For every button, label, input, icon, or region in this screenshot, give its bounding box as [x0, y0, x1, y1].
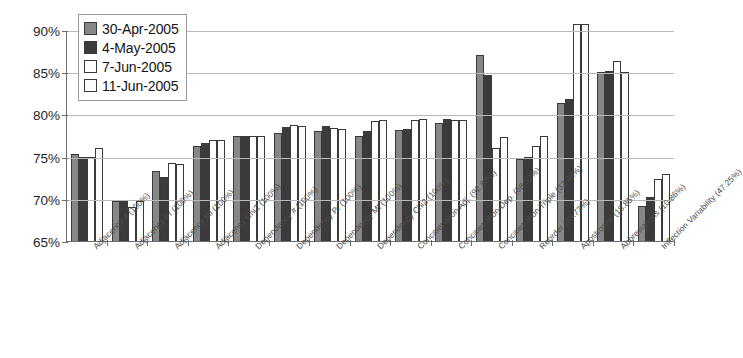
bar [371, 121, 379, 241]
bar [217, 140, 225, 241]
y-axis-tick [62, 158, 68, 159]
legend-swatch-icon [84, 60, 97, 73]
bar [71, 154, 79, 241]
legend-item: 30-Apr-2005 [84, 19, 179, 38]
bar [330, 128, 338, 241]
bar [451, 120, 459, 241]
y-axis-tick [62, 73, 68, 74]
legend-label: 30-Apr-2005 [102, 21, 179, 37]
bar [338, 129, 346, 241]
bar [532, 146, 540, 241]
bar [79, 157, 87, 241]
y-axis-tick-label: 80% [14, 108, 60, 123]
y-axis-tick-label: 85% [14, 66, 60, 81]
legend: 30-Apr-20054-May-20057-Jun-200511-Jun-20… [78, 14, 187, 101]
bar [298, 126, 306, 241]
y-axis-tick-label: 75% [14, 150, 60, 165]
bar [419, 119, 427, 241]
gridline [67, 158, 674, 159]
bar [209, 140, 217, 241]
y-axis-tick-label: 70% [14, 192, 60, 207]
x-axis-labels: Adjacency # (100%)Adjacency Pr (100%)Adj… [66, 244, 674, 358]
bar [540, 136, 548, 242]
bar [621, 72, 629, 241]
bar [290, 125, 298, 241]
legend-label: 7-Jun-2005 [102, 59, 172, 75]
y-axis-tick-label: 90% [14, 24, 60, 39]
y-axis-tick [62, 31, 68, 32]
legend-item: 7-Jun-2005 [84, 57, 179, 76]
bar [597, 72, 605, 241]
y-axis-tick-label: 65% [14, 235, 60, 250]
bar [476, 55, 484, 241]
bar [257, 136, 265, 242]
bar [411, 120, 419, 241]
legend-swatch-icon [84, 41, 97, 54]
legend-swatch-icon [84, 79, 97, 92]
y-axis-tick [62, 115, 68, 116]
bar [249, 136, 257, 242]
y-axis-tick [62, 242, 68, 243]
legend-label: 11-Jun-2005 [102, 78, 178, 94]
legend-label: 4-May-2005 [102, 40, 176, 56]
bar [379, 120, 387, 241]
bar [95, 148, 103, 241]
bar [459, 120, 467, 241]
bar [500, 137, 508, 241]
legend-item: 11-Jun-2005 [84, 76, 179, 95]
legend-swatch-icon [84, 22, 97, 35]
gridline [67, 115, 674, 116]
bar [492, 148, 500, 241]
y-axis-labels: 90%85%80%75%70%65% [8, 31, 60, 242]
y-axis-tick [62, 200, 68, 201]
legend-item: 4-May-2005 [84, 38, 179, 57]
